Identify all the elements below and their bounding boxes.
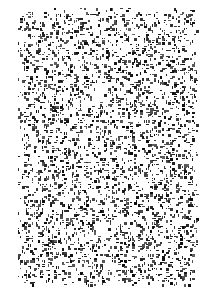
speckle-noise-texture (0, 0, 214, 297)
